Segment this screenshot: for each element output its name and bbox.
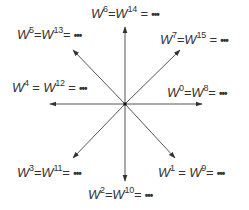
arrow-lower-right: [125, 104, 175, 158]
label-w0: W0=W8= •••: [167, 83, 227, 100]
label-w1: W1 = W9= •••: [158, 163, 224, 180]
label-w3: W3=W11= •••: [17, 163, 81, 180]
label-w5: W5=W13= •••: [17, 25, 81, 42]
label-w4: W4 = W12 = •••: [12, 78, 87, 95]
arrow-lower-left: [73, 104, 125, 158]
arrow-upper-left: [73, 50, 125, 104]
center-dot: [124, 103, 127, 106]
label-w6: W6=W14 = •••: [91, 4, 159, 21]
label-w7: W7=W15 = •••: [160, 30, 228, 47]
label-w2: W2=W10= •••: [88, 185, 152, 202]
